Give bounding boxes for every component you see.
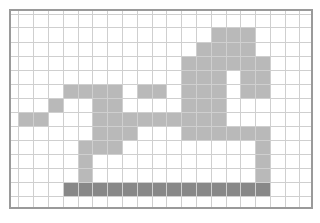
grid-cell[interactable]	[300, 99, 311, 113]
grid-cell[interactable]	[153, 127, 167, 141]
grid-cell[interactable]	[19, 85, 34, 99]
grid-cell[interactable]	[241, 15, 256, 28]
grid-cell[interactable]	[49, 183, 64, 197]
grid-cell[interactable]	[241, 57, 256, 71]
grid-cell[interactable]	[19, 57, 34, 71]
grid-cell[interactable]	[123, 57, 138, 71]
grid-cell[interactable]	[138, 57, 153, 71]
grid-cell[interactable]	[49, 43, 64, 57]
grid-cell[interactable]	[256, 169, 271, 183]
grid-cell[interactable]	[79, 197, 93, 207]
grid-cell[interactable]	[212, 28, 227, 43]
grid-cell[interactable]	[19, 71, 34, 85]
grid-cell[interactable]	[93, 197, 108, 207]
grid-cell[interactable]	[108, 197, 123, 207]
grid-cell[interactable]	[79, 57, 93, 71]
grid-cell[interactable]	[93, 85, 108, 99]
grid-cell[interactable]	[79, 183, 93, 197]
grid-cell[interactable]	[256, 99, 271, 113]
grid-cell[interactable]	[167, 57, 182, 71]
grid-cell[interactable]	[182, 169, 197, 183]
grid-cell[interactable]	[212, 155, 227, 169]
grid-cell[interactable]	[11, 57, 19, 71]
grid-cell[interactable]	[93, 99, 108, 113]
grid-cell[interactable]	[182, 141, 197, 155]
grid-cell[interactable]	[167, 15, 182, 28]
grid-cell[interactable]	[197, 197, 212, 207]
grid-cell[interactable]	[227, 141, 241, 155]
grid-cell[interactable]	[212, 169, 227, 183]
grid-cell[interactable]	[34, 183, 49, 197]
grid-cell[interactable]	[11, 99, 19, 113]
grid-cell[interactable]	[286, 183, 300, 197]
grid-cell[interactable]	[167, 127, 182, 141]
grid-cell[interactable]	[256, 141, 271, 155]
grid-cell[interactable]	[19, 127, 34, 141]
grid-cell[interactable]	[64, 15, 79, 28]
grid-cell[interactable]	[241, 197, 256, 207]
grid-cell[interactable]	[182, 43, 197, 57]
grid-cell[interactable]	[212, 15, 227, 28]
grid-cell[interactable]	[19, 28, 34, 43]
grid-cell[interactable]	[11, 28, 19, 43]
grid-cell[interactable]	[123, 169, 138, 183]
grid-cell[interactable]	[286, 15, 300, 28]
grid-cell[interactable]	[49, 57, 64, 71]
grid-cell[interactable]	[300, 57, 311, 71]
grid-cell[interactable]	[11, 197, 19, 207]
grid-cell[interactable]	[123, 141, 138, 155]
grid-cell[interactable]	[153, 197, 167, 207]
grid-cell[interactable]	[34, 99, 49, 113]
grid-cell[interactable]	[64, 197, 79, 207]
grid-cell[interactable]	[11, 113, 19, 127]
grid-cell[interactable]	[256, 155, 271, 169]
grid-cell[interactable]	[197, 141, 212, 155]
grid-cell[interactable]	[300, 28, 311, 43]
grid-cell[interactable]	[241, 43, 256, 57]
grid-cell[interactable]	[182, 113, 197, 127]
grid-cell[interactable]	[153, 141, 167, 155]
grid-cell[interactable]	[241, 113, 256, 127]
grid-cell[interactable]	[64, 127, 79, 141]
grid-cell[interactable]	[300, 43, 311, 57]
grid-cell[interactable]	[19, 15, 34, 28]
grid-cell[interactable]	[34, 197, 49, 207]
grid-cell[interactable]	[49, 197, 64, 207]
grid-cell[interactable]	[153, 43, 167, 57]
grid-cell[interactable]	[49, 113, 64, 127]
grid-cell[interactable]	[241, 183, 256, 197]
grid-cell[interactable]	[49, 155, 64, 169]
grid-cell[interactable]	[108, 127, 123, 141]
grid-cell[interactable]	[19, 99, 34, 113]
grid-cell[interactable]	[79, 15, 93, 28]
grid-cell[interactable]	[271, 169, 286, 183]
grid-cell[interactable]	[256, 57, 271, 71]
grid-cell[interactable]	[256, 43, 271, 57]
grid-cell[interactable]	[138, 169, 153, 183]
grid-cell[interactable]	[227, 28, 241, 43]
grid-cell[interactable]	[256, 85, 271, 99]
grid-cell[interactable]	[197, 113, 212, 127]
grid-cell[interactable]	[93, 28, 108, 43]
grid-cell[interactable]	[182, 197, 197, 207]
grid-cell[interactable]	[286, 113, 300, 127]
grid-cell[interactable]	[34, 169, 49, 183]
grid-cell[interactable]	[93, 71, 108, 85]
grid-cell[interactable]	[138, 71, 153, 85]
grid-cell[interactable]	[49, 99, 64, 113]
grid-cell[interactable]	[108, 99, 123, 113]
grid-cell[interactable]	[153, 155, 167, 169]
grid-cell[interactable]	[227, 15, 241, 28]
grid-cell[interactable]	[34, 155, 49, 169]
grid-cell[interactable]	[212, 57, 227, 71]
grid-cell[interactable]	[138, 197, 153, 207]
grid-cell[interactable]	[286, 28, 300, 43]
grid-cell[interactable]	[34, 85, 49, 99]
grid-cell[interactable]	[93, 141, 108, 155]
grid-cell[interactable]	[182, 85, 197, 99]
grid-cell[interactable]	[11, 183, 19, 197]
grid-cell[interactable]	[108, 155, 123, 169]
grid-cell[interactable]	[153, 99, 167, 113]
grid-cell[interactable]	[34, 71, 49, 85]
grid-cell[interactable]	[64, 113, 79, 127]
